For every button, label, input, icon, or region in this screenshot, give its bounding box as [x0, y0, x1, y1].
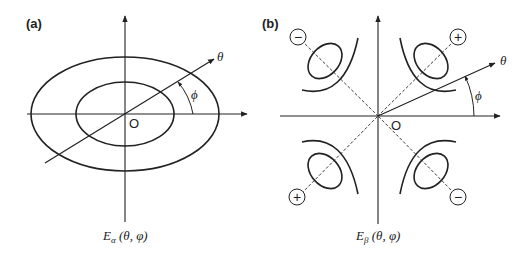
panel-a-label: (a) — [26, 16, 42, 31]
sign-upper-right: + — [454, 29, 462, 45]
lobe-ellipse-upper-right — [407, 37, 455, 85]
theta-label-a: θ — [217, 49, 224, 64]
lobe-lower-left: + — [289, 141, 358, 205]
caption-a: Eα (θ, φ) — [102, 228, 148, 245]
sign-lower-right: − — [454, 189, 462, 205]
figure-canvas: (a) θ ϕ O Eα (θ, φ) (b) − — [0, 0, 524, 263]
lobe-upper-left: − — [290, 29, 358, 91]
theta-label-b: θ — [500, 53, 507, 68]
origin-label-a: O — [129, 116, 139, 131]
sign-lower-left: + — [293, 189, 301, 205]
lobe-ellipse-lower-right — [407, 147, 455, 195]
diagonal-upper-right — [378, 37, 458, 116]
theta-direction-line-a — [45, 59, 214, 163]
lobe-arc-lower-left — [302, 141, 358, 194]
lobe-upper-right: + — [400, 29, 466, 91]
phi-label-a: ϕ — [191, 87, 198, 102]
caption-a-args: (θ, φ) — [116, 228, 148, 243]
panel-b-label: (b) — [262, 16, 279, 31]
caption-b-symbol: E — [355, 228, 364, 243]
caption-a-symbol: E — [102, 228, 111, 243]
sign-upper-left: − — [294, 29, 302, 45]
diagonal-lower-right — [378, 116, 458, 197]
panel-a: (a) θ ϕ O Eα (θ, φ) — [26, 16, 247, 245]
origin-label-b: O — [391, 118, 401, 133]
caption-b: Eβ (θ, φ) — [355, 228, 400, 245]
phi-label-b: ϕ — [475, 88, 482, 103]
diagonal-lower-left — [298, 116, 378, 197]
phi-arc-b — [465, 76, 474, 116]
panel-b: (b) − + + — [262, 16, 507, 245]
lobe-lower-right: − — [400, 141, 466, 205]
diagonal-upper-left — [298, 37, 378, 116]
caption-b-args: (θ, φ) — [368, 228, 400, 243]
lobe-arc-upper-left — [302, 38, 358, 91]
